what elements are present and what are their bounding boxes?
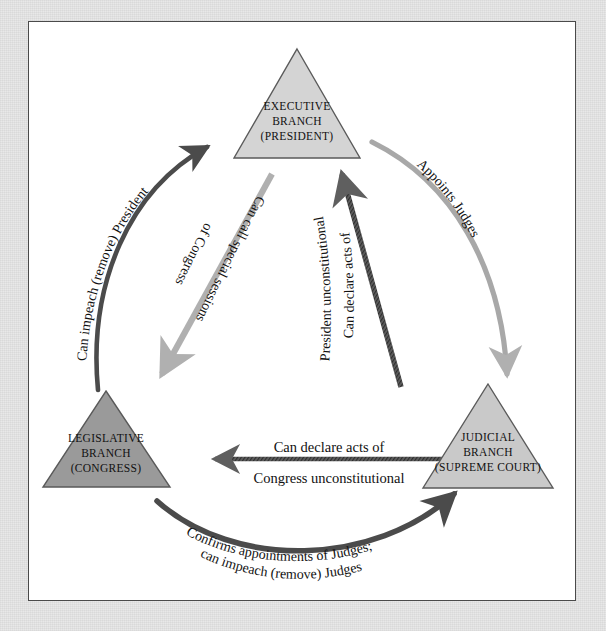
node-judicial-branch[interactable]: JUDICIAL BRANCH (SUPREME COURT) — [423, 384, 553, 488]
judicial-label-line-1: JUDICIAL — [461, 431, 515, 443]
node-executive-branch[interactable]: EXECUTIVE BRANCH (PRESIDENT) — [234, 49, 360, 158]
label-declare-president-acts-line-1: Can declare acts of — [337, 231, 357, 339]
executive-label-line-3: (PRESIDENT) — [261, 130, 334, 143]
diagram-canvas: EXECUTIVE BRANCH (PRESIDENT) LEGISLATIVE… — [28, 21, 576, 601]
executive-label-line-2: BRANCH — [272, 115, 322, 127]
label-declare-congress-acts-line-1: Can declare acts of — [274, 439, 385, 455]
diagram-page: EXECUTIVE BRANCH (PRESIDENT) LEGISLATIVE… — [0, 0, 606, 631]
checks-and-balances-diagram: EXECUTIVE BRANCH (PRESIDENT) LEGISLATIVE… — [29, 22, 577, 602]
judicial-label-line-2: BRANCH — [463, 446, 513, 458]
legislative-label-line-3: (CONGRESS) — [71, 462, 142, 475]
label-declare-congress-acts-line-2: Congress unconstitutional — [253, 470, 404, 486]
judicial-label-line-3: (SUPREME COURT) — [435, 461, 541, 474]
label-call-special-sessions-line-1: Can call special sessions — [193, 194, 268, 325]
label-appoints-judges: Appoints Judges — [414, 156, 483, 240]
node-legislative-branch[interactable]: LEGISLATIVE BRANCH (CONGRESS) — [43, 391, 170, 487]
label-declare-president-acts-line-2: President unconstitutional — [311, 215, 334, 361]
legislative-label-line-1: LEGISLATIVE — [68, 432, 144, 444]
executive-label-line-1: EXECUTIVE — [263, 100, 330, 112]
legislative-label-line-2: BRANCH — [81, 447, 131, 459]
label-call-special-sessions-line-2: of Congress — [172, 221, 215, 288]
